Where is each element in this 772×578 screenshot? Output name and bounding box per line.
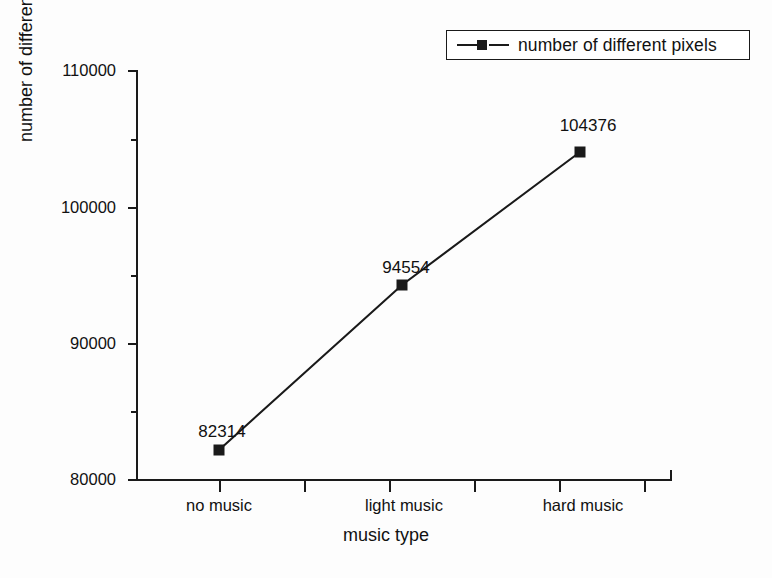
data-label-no-music: 82314 (198, 422, 245, 442)
y-tick-label-80000: 80000 (70, 470, 116, 489)
legend-line-left (457, 44, 477, 46)
y-minor-tick-85000 (131, 411, 137, 413)
legend-entry-label: number of different pixels (518, 35, 717, 56)
y-tick-80000 (128, 479, 137, 481)
data-point-marker-hard-music (575, 147, 586, 158)
x-tick-light-music (389, 481, 391, 492)
x-axis-label-no-music: no music (186, 496, 252, 515)
legend-line-right (489, 44, 509, 46)
x-axis-end-tick (670, 470, 672, 481)
data-point-marker-light-music (397, 280, 408, 291)
series-line (0, 0, 772, 578)
x-tick-minor-1 (304, 481, 306, 492)
y-axis-title: number of different pixels (16, 0, 37, 142)
legend-square-marker-icon (477, 40, 487, 50)
data-label-hard-music: 104376 (560, 116, 617, 136)
x-axis-title: music type (0, 525, 772, 546)
legend-line-marker-sample (455, 38, 511, 52)
data-point-marker-no-music (214, 445, 225, 456)
y-tick-label-100000: 100000 (61, 198, 116, 217)
y-tick-label-90000: 90000 (70, 334, 116, 353)
y-tick-90000 (128, 343, 137, 345)
x-tick-hard-music (559, 481, 561, 492)
y-minor-tick-105000 (131, 139, 137, 141)
y-tick-100000 (128, 207, 137, 209)
data-label-light-music: 94554 (382, 258, 429, 278)
x-axis-label-hard-music: hard music (543, 496, 624, 515)
y-tick-110000 (128, 70, 137, 72)
chart-figure: number of different pixels 110000 100000… (0, 0, 772, 578)
x-axis-line (136, 479, 672, 481)
chart-legend: number of different pixels (446, 30, 750, 60)
x-tick-minor-2 (474, 481, 476, 492)
x-tick-no-music (219, 481, 221, 492)
x-tick-minor-3 (644, 481, 646, 492)
x-axis-label-light-music: light music (365, 496, 443, 515)
y-minor-tick-95000 (131, 275, 137, 277)
y-tick-label-110000: 110000 (62, 61, 116, 80)
